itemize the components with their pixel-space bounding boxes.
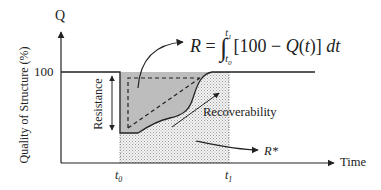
- x-tick-t0: t0: [115, 168, 122, 184]
- resistance-label: Resistance: [91, 78, 106, 129]
- y-tick-100: 100: [34, 64, 54, 80]
- y-axis-title: Quality of Structure (%): [17, 47, 32, 164]
- x-tick-t1: t1: [225, 168, 232, 184]
- x-axis-title: Time: [340, 155, 366, 170]
- y-axis-symbol: Q: [55, 8, 65, 24]
- recoverability-label: Recoverability: [203, 105, 277, 120]
- resilience-formula: R = ∫ t1 t0 [100 − Q(t)] dt: [190, 27, 340, 69]
- r-star-label: R*: [264, 144, 278, 159]
